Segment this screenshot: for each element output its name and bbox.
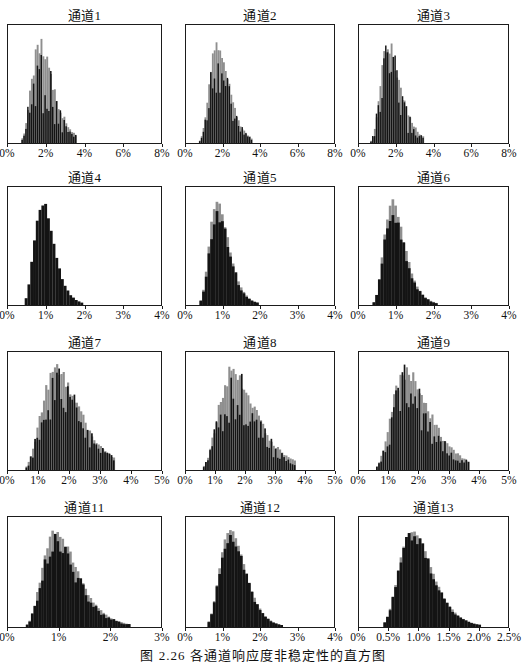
x-axis-tick-label: 2% <box>103 631 118 643</box>
x-axis-tick-label: 1% <box>215 309 230 321</box>
histogram-bars <box>186 352 334 470</box>
x-axis: 0%2%4%6%8% <box>7 144 162 160</box>
x-axis-tick-label: 2% <box>426 309 441 321</box>
histogram-grid: 通道1 0%2%4%6%8% 通道2 0%2%4%6%8% 通道3 0%2%4%… <box>7 0 509 644</box>
x-axis-tick-label: 8% <box>154 147 169 159</box>
x-axis-tick-label: 0% <box>0 147 15 159</box>
x-axis-tick-label: 0% <box>0 309 15 321</box>
x-axis-tick-label: 3% <box>290 309 305 321</box>
x-axis-tick-label: 1% <box>215 631 230 643</box>
x-axis: 0%1%2%3%4% <box>358 306 509 322</box>
x-axis-tick-label: 1% <box>381 474 396 486</box>
x-axis-tick-label: 3% <box>441 474 456 486</box>
x-axis-tick-label: 4% <box>297 474 312 486</box>
histogram-bars <box>8 352 161 470</box>
x-axis-tick-label: 3% <box>464 309 479 321</box>
panel-title: 通道13 <box>358 499 509 516</box>
x-axis-tick-label: 1.0% <box>406 631 430 643</box>
panel-channel-9: 通道9 0%1%2%3%4%5% <box>358 327 509 492</box>
x-axis-tick-label: 0% <box>350 147 365 159</box>
x-axis: 0%1%2%3%4% <box>185 306 335 322</box>
panel-title: 通道4 <box>7 169 162 186</box>
panel-channel-12: 通道12 0%1%2%3%4% <box>185 492 335 644</box>
panel-title: 通道3 <box>358 7 509 24</box>
histogram-bars <box>359 25 508 143</box>
panel-title: 通道7 <box>7 334 162 351</box>
panel-channel-8: 通道8 0%1%2%3%4%5% <box>185 327 335 492</box>
histogram-bars <box>359 352 508 470</box>
x-axis-tick-label: 0.5% <box>376 631 400 643</box>
x-axis-tick-label: 1.5% <box>437 631 461 643</box>
histogram-bars <box>186 25 334 143</box>
x-axis-tick-label: 3% <box>267 474 282 486</box>
x-axis-tick-label: 0% <box>350 474 365 486</box>
panel-channel-4: 通道4 0%1%2%3%4% <box>7 162 162 327</box>
x-axis-tick-label: 0% <box>177 631 192 643</box>
x-axis-tick-label: 3% <box>116 309 131 321</box>
x-axis: 0%1%2%3%4%5% <box>358 471 509 487</box>
histogram-bars <box>8 25 161 143</box>
panel-channel-1: 通道1 0%2%4%6%8% <box>7 0 162 162</box>
x-axis: 0%1%2%3% <box>7 628 162 644</box>
x-axis-tick-label: 2% <box>61 474 76 486</box>
x-axis-tick-label: 5% <box>501 474 516 486</box>
histogram-bars <box>186 187 334 305</box>
x-axis-tick-label: 0% <box>350 631 365 643</box>
x-axis-tick-label: 2% <box>252 309 267 321</box>
x-axis-tick-label: 2% <box>77 309 92 321</box>
histogram-plot <box>358 186 509 306</box>
x-axis-tick-label: 6% <box>464 147 479 159</box>
x-axis-tick-label: 1% <box>30 474 45 486</box>
histogram-plot <box>185 24 335 144</box>
x-axis-tick-label: 3% <box>92 474 107 486</box>
x-axis-tick-label: 0% <box>177 309 192 321</box>
x-axis: 0%2%4%6%8% <box>185 144 335 160</box>
figure-caption: 图 2.26 各通道响应度非稳定性的直方图 <box>0 645 526 664</box>
x-axis-tick-label: 0% <box>177 147 192 159</box>
panel-channel-13: 通道13 0%0.5%1.0%1.5%2.0%2.5% <box>358 492 509 644</box>
x-axis-tick-label: 2% <box>215 147 230 159</box>
histogram-plot <box>358 351 509 471</box>
x-axis-tick-label: 0% <box>0 631 15 643</box>
histogram-plot <box>358 516 509 628</box>
histogram-plot <box>185 186 335 306</box>
histogram-plot <box>7 351 162 471</box>
x-axis-tick-label: 4% <box>327 631 342 643</box>
histogram-bars <box>8 187 161 305</box>
histogram-plot <box>7 516 162 628</box>
panel-title: 通道6 <box>358 169 509 186</box>
histogram-plot <box>7 24 162 144</box>
panel-channel-2: 通道2 0%2%4%6%8% <box>185 0 335 162</box>
x-axis: 0%1%2%3%4% <box>185 628 335 644</box>
x-axis-tick-label: 0% <box>0 474 15 486</box>
panel-title: 通道11 <box>7 499 162 516</box>
panel-channel-11: 通道11 0%1%2%3% <box>7 492 162 644</box>
x-axis-tick-label: 2% <box>237 474 252 486</box>
x-axis-tick-label: 3% <box>290 631 305 643</box>
histogram-bars <box>359 517 508 627</box>
x-axis-tick-label: 1% <box>388 309 403 321</box>
panel-title: 通道9 <box>358 334 509 351</box>
x-axis: 0%2%4%6%8% <box>358 144 509 160</box>
x-axis-tick-label: 1% <box>38 309 53 321</box>
x-axis-tick-label: 1% <box>207 474 222 486</box>
x-axis-tick-label: 4% <box>426 147 441 159</box>
x-axis-tick-label: 2% <box>252 631 267 643</box>
x-axis-tick-label: 2% <box>388 147 403 159</box>
panel-title: 通道5 <box>185 169 335 186</box>
x-axis-tick-label: 5% <box>327 474 342 486</box>
panel-channel-7: 通道7 0%1%2%3%4%5% <box>7 327 162 492</box>
x-axis-tick-label: 4% <box>327 309 342 321</box>
x-axis-tick-label: 4% <box>501 309 516 321</box>
x-axis-tick-label: 4% <box>252 147 267 159</box>
x-axis-tick-label: 3% <box>154 631 169 643</box>
x-axis-tick-label: 4% <box>154 309 169 321</box>
x-axis-tick-label: 4% <box>471 474 486 486</box>
histogram-plot <box>185 516 335 628</box>
x-axis-tick-label: 2% <box>411 474 426 486</box>
x-axis-tick-label: 2% <box>38 147 53 159</box>
x-axis-tick-label: 2.0% <box>467 631 491 643</box>
x-axis-tick-label: 2.5% <box>497 631 521 643</box>
x-axis: 0%0.5%1.0%1.5%2.0%2.5% <box>358 628 509 644</box>
panel-title: 通道1 <box>7 7 162 24</box>
